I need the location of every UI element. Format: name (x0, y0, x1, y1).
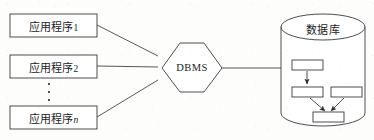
vertical-ellipsis (46, 83, 52, 101)
app-box-2-label: 应用程序2 (10, 59, 97, 75)
app-box-2-index: 2 (74, 64, 79, 74)
inner-node-mid-right (331, 87, 362, 97)
ellipsis-dot (48, 99, 50, 101)
app-box-2-name: 应用程序 (29, 62, 74, 74)
ellipsis-dot (48, 91, 50, 93)
connector-app2-dbms (97, 66, 158, 67)
connector-appn-dbms (97, 80, 158, 117)
dbms-label: DBMS (162, 62, 222, 73)
figure-canvas: 应用程序1 应用程序2 应用程序n DBMS 数据库 (0, 0, 374, 140)
app-box-n-index: n (74, 115, 79, 125)
ellipsis-dot (48, 83, 50, 85)
app-box-1-name: 应用程序 (29, 21, 74, 33)
app-box-1-label: 应用程序1 (10, 18, 97, 34)
cylinder-body (281, 27, 365, 126)
app-box-n-label: 应用程序n (10, 110, 97, 126)
inner-node-top (292, 60, 323, 70)
app-box-n-name: 应用程序 (29, 113, 74, 125)
inner-node-mid-left (292, 87, 323, 97)
database-label: 数据库 (281, 21, 365, 37)
inner-node-bottom (313, 112, 344, 122)
connector-app1-dbms (97, 25, 158, 56)
app-box-1-index: 1 (74, 23, 79, 33)
